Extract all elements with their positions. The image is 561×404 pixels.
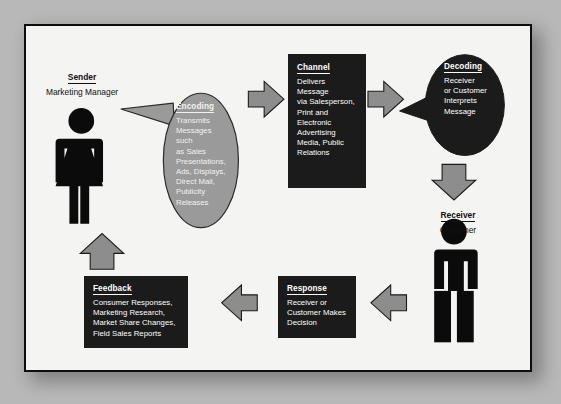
node-decoding[interactable]: Decoding Receiver or Customer Interprets… [444, 62, 512, 132]
receiver-figure-icon [434, 219, 477, 343]
arrow-decoding-to-receiver [432, 164, 475, 200]
encoding-title: Encoding [176, 102, 214, 113]
feedback-body: Consumer Responses, Marketing Research, … [93, 298, 175, 339]
receiver-label: Receiver Customer [408, 204, 508, 236]
node-encoding[interactable]: Encoding Transmits Messages such as Sale… [176, 102, 238, 222]
channel-title: Channel [297, 63, 330, 74]
node-channel[interactable]: Channel Delivers Message via Salesperson… [288, 54, 366, 188]
decoding-body: Receiver or Customer Interprets Message [444, 76, 487, 117]
channel-body: Delivers Message via Salesperson, Print … [297, 77, 355, 159]
feedback-title: Feedback [93, 284, 132, 295]
response-title: Response [287, 284, 327, 295]
arrow-response-to-feedback [222, 285, 258, 321]
arrow-receiver-to-response [371, 285, 407, 321]
encoding-body: Transmits Messages such as Sales Present… [176, 116, 226, 208]
sender-label: Sender Marketing Manager [32, 66, 132, 98]
response-body: Receiver or Customer Makes Decision [287, 298, 346, 329]
node-feedback[interactable]: Feedback Consumer Responses, Marketing R… [84, 276, 188, 348]
receiver-subtitle-text: Customer [408, 224, 508, 236]
sender-role-text: Sender [68, 72, 96, 84]
node-response[interactable]: Response Receiver or Customer Makes Deci… [278, 276, 356, 338]
diagram-stage: Sender Marketing Manager Receiver Custom… [0, 0, 561, 404]
diagram-card: Sender Marketing Manager Receiver Custom… [24, 24, 532, 372]
arrow-feedback-to-sender [80, 234, 123, 270]
sender-subtitle-text: Marketing Manager [32, 86, 132, 98]
sender-figure-icon [56, 108, 103, 224]
receiver-role-text: Receiver [441, 210, 476, 222]
arrow-encoding-to-channel [248, 81, 284, 117]
decoding-title: Decoding [444, 62, 482, 73]
